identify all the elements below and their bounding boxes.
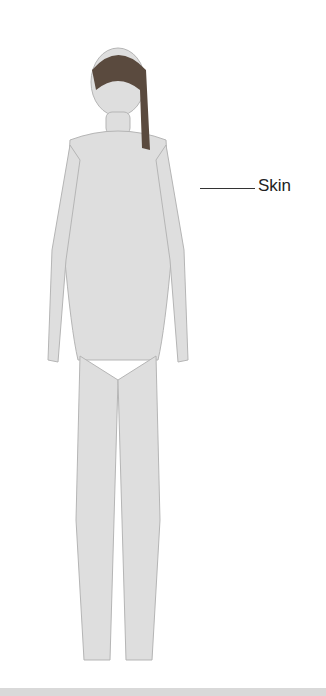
body-silhouette: [0, 0, 326, 696]
bottom-divider: [0, 688, 326, 696]
skin-leader-line: [200, 188, 255, 189]
skin-label: Skin: [258, 176, 291, 196]
